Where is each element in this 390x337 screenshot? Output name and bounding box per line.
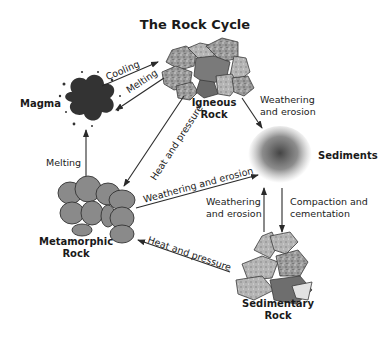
weathering-igneous-label: Weathering and erosion	[260, 94, 316, 118]
magma-label: Magma	[20, 98, 61, 110]
metamorphic-label: Metamorphic Rock	[36, 236, 116, 260]
weathering-igneous-line2: and erosion	[260, 106, 316, 118]
weathering-sedimentary-line2: and erosion	[206, 208, 260, 220]
metamorphic-label-line2: Rock	[36, 248, 116, 260]
rock-cycle-diagram: The Rock Cycle	[0, 0, 390, 337]
sedimentary-rock-icon	[236, 232, 312, 304]
arrow-igneous-weathering	[242, 98, 262, 128]
metamorphic-label-line1: Metamorphic	[36, 236, 116, 248]
metamorphic-rock-icon	[58, 176, 135, 243]
sediments-label: Sediments	[318, 150, 378, 162]
sedimentary-label-line1: Sedimentary	[238, 298, 318, 310]
weathering-sedimentary-line1: Weathering	[206, 196, 260, 208]
weathering-igneous-line1: Weathering	[260, 94, 316, 106]
sediments-icon	[248, 126, 312, 186]
melting-metamorphic-label: Melting	[46, 157, 81, 169]
sedimentary-label-line2: Rock	[238, 310, 318, 322]
igneous-rock-icon	[162, 38, 254, 100]
sedimentary-label: Sedimentary Rock	[238, 298, 318, 322]
compaction-label: Compaction and cementation	[290, 196, 368, 220]
compaction-line2: cementation	[290, 208, 368, 220]
weathering-sedimentary-label: Weathering and erosion	[206, 196, 260, 220]
compaction-line1: Compaction and	[290, 196, 368, 208]
